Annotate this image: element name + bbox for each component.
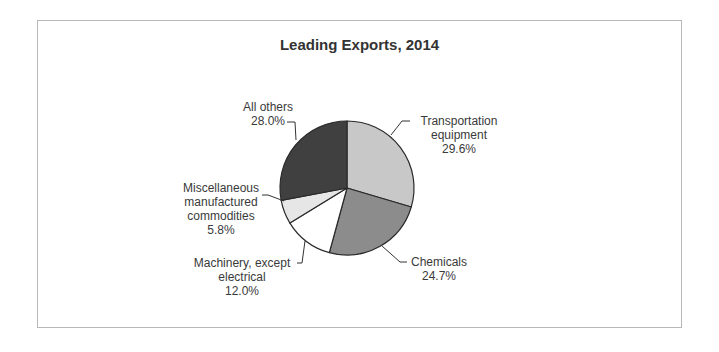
label-misc: Miscellaneous manufactured commodities 5… bbox=[176, 181, 266, 237]
label-transportation: Transportation equipment 29.6% bbox=[409, 114, 509, 156]
pie-slices bbox=[280, 121, 414, 255]
leader-line-machinery bbox=[297, 241, 305, 263]
pie-slice-others bbox=[280, 121, 347, 200]
pie-chart bbox=[0, 0, 719, 352]
leader-line-transportation bbox=[391, 121, 410, 135]
label-machinery: Machinery, except electrical 12.0% bbox=[186, 256, 298, 298]
label-others: All others 28.0% bbox=[238, 100, 298, 128]
label-chemicals: Chemicals 24.7% bbox=[404, 255, 474, 283]
